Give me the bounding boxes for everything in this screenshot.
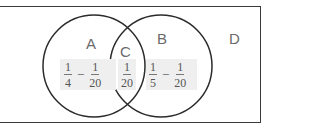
minus-sign: − (162, 67, 169, 83)
intersection-label-c: C (120, 44, 131, 59)
fraction: 1 5 (149, 61, 157, 89)
minus-sign: − (77, 67, 84, 83)
fraction: 1 4 (64, 61, 72, 89)
intersection-expression: 1 20 (118, 59, 136, 90)
fraction: 1 20 (174, 61, 186, 89)
fraction: 1 20 (89, 61, 101, 89)
region-a-expression: 1 4 − 1 20 (60, 59, 116, 90)
universe-label-d: D (229, 31, 240, 46)
region-b-expression: 1 5 − 1 20 (146, 59, 197, 90)
fraction: 1 20 (121, 61, 133, 89)
set-label-b: B (157, 31, 167, 46)
set-label-a: A (86, 36, 96, 51)
